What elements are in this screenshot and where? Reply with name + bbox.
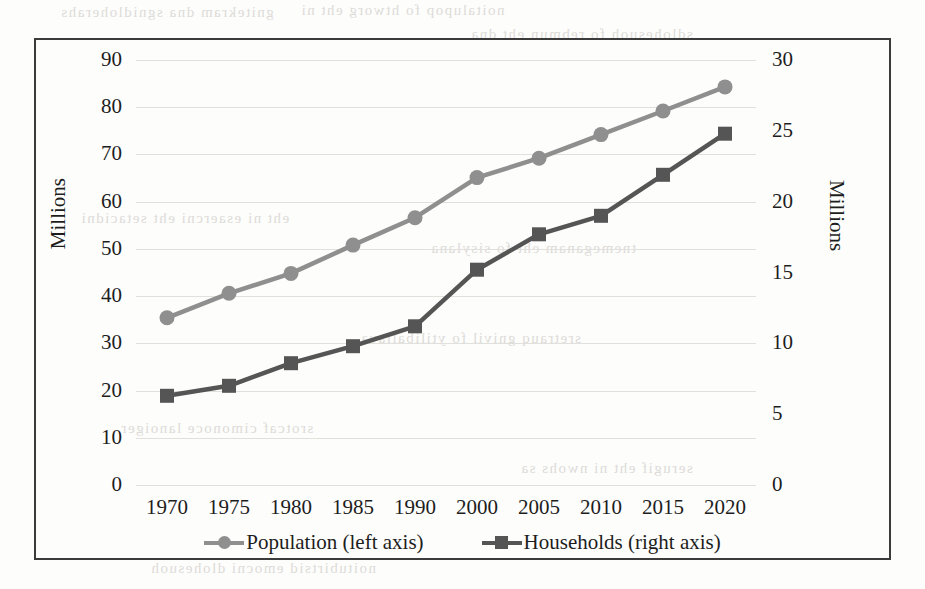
- data-point-square: [656, 168, 670, 182]
- bleed-text: noitubirtsid emocni dlohesuoh: [150, 560, 376, 577]
- series-line: [167, 87, 725, 318]
- chart-figure-frame: 0102030405060708090 051015202530 Million…: [34, 38, 891, 560]
- left-axis-title: Millions: [48, 178, 69, 249]
- right-axis-tick-label: 25: [772, 120, 793, 141]
- legend-item[interactable]: Households (right axis): [482, 530, 721, 555]
- data-point-circle: [656, 104, 671, 119]
- data-point-square: [532, 227, 546, 241]
- right-axis-tick-label: 20: [772, 191, 793, 212]
- left-axis-tick-label: 10: [101, 427, 122, 448]
- square-marker-icon: [482, 535, 522, 551]
- left-axis-tick-label: 80: [101, 96, 122, 117]
- series-line: [167, 134, 725, 396]
- x-axis-tick-label: 1985: [322, 495, 384, 520]
- bleed-text: gnitekram dna sgnidloherahs: [60, 4, 274, 21]
- x-axis-tick-label: 1990: [384, 495, 446, 520]
- x-axis-tick-label: 1975: [198, 495, 260, 520]
- left-axis-tick-label: 50: [101, 238, 122, 259]
- x-axis-tick-label: 2020: [694, 495, 756, 520]
- x-axis-tick-label: 2000: [446, 495, 508, 520]
- data-point-circle: [470, 170, 485, 185]
- right-axis-title: Millions: [826, 180, 847, 251]
- series-plot: [136, 60, 756, 485]
- x-axis-tick-label: 2015: [632, 495, 694, 520]
- legend-label: Households (right axis): [524, 530, 721, 555]
- chart-legend: Population (left axis)Households (right …: [36, 530, 889, 555]
- data-point-square: [222, 379, 236, 393]
- plot-area: 0102030405060708090 051015202530 Million…: [136, 60, 756, 485]
- left-axis-tick-label: 0: [112, 474, 123, 495]
- data-point-circle: [718, 79, 733, 94]
- right-axis-tick-label: 30: [772, 49, 793, 70]
- data-point-circle: [408, 210, 423, 225]
- legend-item[interactable]: Population (left axis): [204, 530, 423, 555]
- left-axis-tick-label: 20: [101, 380, 122, 401]
- data-point-square: [284, 356, 298, 370]
- legend-label: Population (left axis): [246, 530, 423, 555]
- data-point-circle: [346, 238, 361, 253]
- circle-marker-icon: [204, 535, 244, 551]
- x-axis-tick-label: 1980: [260, 495, 322, 520]
- data-point-square: [470, 263, 484, 277]
- right-axis-tick-label: 5: [772, 403, 783, 424]
- data-point-square: [160, 389, 174, 403]
- right-axis-tick-label: 10: [772, 332, 793, 353]
- data-point-square: [346, 339, 360, 353]
- left-axis-tick-label: 70: [101, 143, 122, 164]
- left-axis-tick-label: 30: [101, 332, 122, 353]
- left-axis-tick-label: 60: [101, 191, 122, 212]
- data-point-circle: [594, 127, 609, 142]
- x-axis-tick-label: 1970: [136, 495, 198, 520]
- data-point-square: [718, 127, 732, 141]
- data-point-square: [408, 319, 422, 333]
- x-axis-tick-label: 2005: [508, 495, 570, 520]
- left-axis-tick-label: 40: [101, 285, 122, 306]
- bleed-text: noitalupop fo htworg eht ni: [300, 2, 504, 19]
- data-point-circle: [532, 151, 547, 166]
- data-point-circle: [284, 266, 299, 281]
- right-axis-tick-label: 15: [772, 262, 793, 283]
- data-point-square: [594, 209, 608, 223]
- gridline: [136, 485, 756, 486]
- x-axis-tick-label: 2010: [570, 495, 632, 520]
- x-axis-categories: 1970197519801985199020002005201020152020: [136, 495, 756, 520]
- data-point-circle: [222, 286, 237, 301]
- left-axis-tick-label: 90: [101, 49, 122, 70]
- data-point-circle: [160, 310, 175, 325]
- right-axis-tick-label: 0: [772, 474, 783, 495]
